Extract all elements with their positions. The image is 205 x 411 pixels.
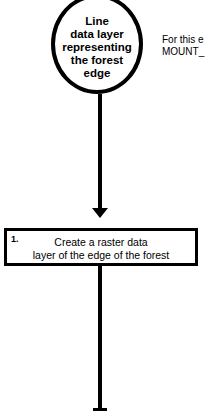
input-node-line-5: edge	[84, 67, 111, 80]
input-node-line-2: data layer	[70, 28, 124, 41]
side-note-line-1: For this e	[162, 34, 204, 46]
arrow-down-icon	[92, 208, 108, 218]
input-node-circle: Line data layer representing the forest …	[51, 0, 143, 94]
input-node-line-4: the forest	[71, 54, 123, 67]
step-text-line-1: Create a raster data	[7, 236, 195, 249]
input-node-line-3: representing	[62, 41, 132, 54]
connector-line-2	[98, 266, 102, 411]
side-note-line-2: MOUNT_	[162, 46, 204, 58]
connector-line-1	[98, 94, 102, 210]
side-note: For this e MOUNT_	[162, 34, 204, 58]
step-text-line-2: layer of the edge of the forest	[7, 249, 195, 262]
step-box-1: 1. Create a raster data layer of the edg…	[4, 228, 198, 266]
step-text: Create a raster data layer of the edge o…	[7, 236, 195, 262]
input-node-line-1: Line	[85, 15, 109, 28]
